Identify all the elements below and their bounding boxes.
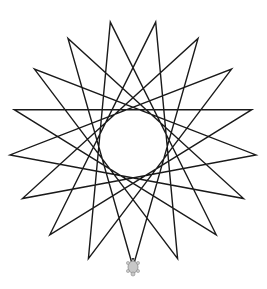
star-polygon [10,22,256,267]
turtle-icon [126,258,139,276]
turtle-canvas [0,0,267,289]
